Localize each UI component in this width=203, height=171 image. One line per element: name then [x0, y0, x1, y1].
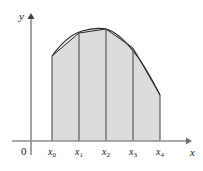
x-axis-label: x	[190, 147, 195, 158]
x-axis-arrowhead	[186, 138, 192, 145]
trapezoidal-rule-figure: y x 0 x0 x1 x2 x3 x4	[0, 0, 203, 171]
tick-label-x4: x4	[156, 147, 164, 157]
tick-label-x3: x3	[129, 147, 137, 157]
y-axis-arrowhead	[28, 13, 35, 19]
tick-label-x0: x0	[48, 147, 56, 157]
y-axis-label: y	[19, 11, 24, 22]
tick-label-x1: x1	[75, 147, 83, 157]
tick-label-x2: x2	[102, 147, 110, 157]
origin-label: 0	[21, 146, 27, 157]
